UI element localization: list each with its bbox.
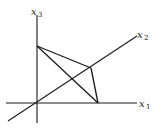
- svg-text:x: x: [31, 6, 37, 17]
- svg-text:x: x: [139, 98, 145, 109]
- x2-axis-label: x 2: [137, 29, 148, 42]
- svg-text:3: 3: [38, 11, 42, 19]
- triangle-edge-ac: [37, 46, 98, 103]
- svg-text:1: 1: [146, 103, 150, 111]
- svg-text:2: 2: [144, 34, 148, 42]
- triangle-edge-ab: [37, 46, 91, 68]
- x1-axis-label: x 1: [139, 98, 150, 111]
- svg-text:x: x: [137, 29, 143, 40]
- coordinate-diagram: x 3 x 2 x 1: [0, 0, 154, 134]
